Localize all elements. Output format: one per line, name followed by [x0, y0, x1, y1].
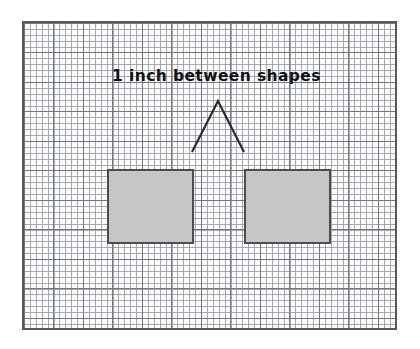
graph-paper-frame: 1 inch between shapes [22, 21, 397, 330]
caret-stroke [192, 101, 244, 152]
left-square-shape [107, 169, 194, 244]
gap-caret-icon [190, 99, 246, 154]
right-square-shape [244, 169, 331, 244]
figure-canvas: 1 inch between shapes [0, 0, 420, 349]
drawing-layer: 1 inch between shapes [24, 23, 397, 330]
figure-caption: 1 inch between shapes [112, 67, 312, 85]
